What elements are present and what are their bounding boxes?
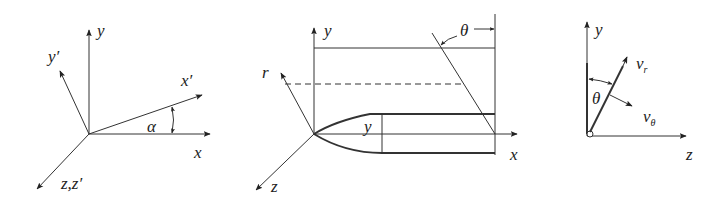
theta-angle-arc <box>589 79 612 84</box>
y-axis-label: y <box>593 20 603 39</box>
panel-cone-cylinder: y r y x θ z <box>256 14 518 196</box>
theta-label: θ <box>592 89 600 108</box>
panel-rotated-axes: y y′ x′ x α z,z′ <box>37 21 210 193</box>
inner-y-label: y <box>362 117 372 136</box>
alpha-angle-label: α <box>147 117 157 136</box>
x-axis-label: x <box>193 143 202 162</box>
theta-arrow-left <box>441 36 457 45</box>
x-prime-axis <box>89 95 202 134</box>
y-axis-label: y <box>322 21 332 40</box>
z-axis-label: z,z′ <box>60 174 82 193</box>
alpha-angle-arc <box>172 107 174 133</box>
y-prime-axis-label: y′ <box>46 47 60 66</box>
body-lower-contour <box>314 134 495 153</box>
z-axis <box>256 134 314 190</box>
z-axis-label: z <box>685 145 693 164</box>
theta-label: θ <box>460 21 468 40</box>
body-upper-contour <box>314 114 495 134</box>
v-theta-label: vθ <box>643 107 656 128</box>
v-r-label: vr <box>636 54 648 75</box>
panel-velocity-components: y z vr θ vθ <box>587 20 693 164</box>
z-axis-label: z <box>270 177 278 196</box>
r-axis-label: r <box>262 63 269 82</box>
v-r-vector <box>623 57 627 66</box>
r-axis <box>281 73 314 134</box>
y-axis-label: y <box>95 21 105 40</box>
y-prime-axis <box>60 71 89 134</box>
v-theta-vector <box>610 95 632 106</box>
x-prime-axis-label: x′ <box>180 71 193 90</box>
diagram-canvas: y y′ x′ x α z,z′ y r y x θ z <box>0 0 723 203</box>
x-axis-label: x <box>509 145 518 164</box>
